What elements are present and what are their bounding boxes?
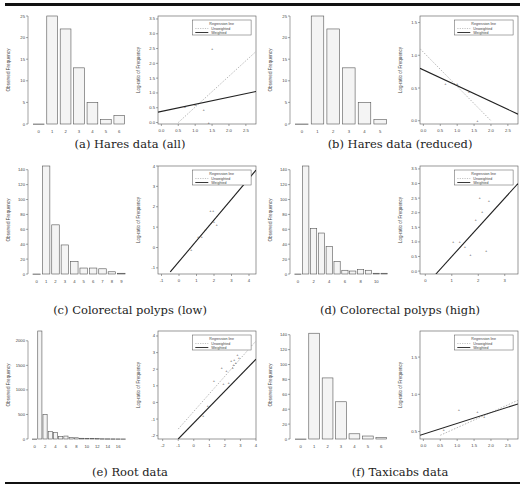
data-point: +: [215, 222, 218, 227]
svg-text:4: 4: [328, 279, 331, 284]
bar: [100, 120, 111, 124]
bar: [381, 273, 387, 274]
bar: [121, 439, 125, 440]
bar: [358, 102, 371, 124]
svg-text:3: 3: [239, 443, 242, 448]
bar: [74, 68, 85, 124]
chart-f-scatter: Log-ratio of Frequency0.51.01.50.00.51.0…: [394, 325, 522, 453]
svg-text:2: 2: [224, 443, 227, 448]
svg-text:20: 20: [282, 422, 287, 427]
bar: [343, 68, 356, 124]
svg-text:Weighted: Weighted: [211, 181, 226, 185]
data-point: +: [474, 217, 477, 222]
data-point: +: [201, 234, 204, 239]
svg-text:0: 0: [23, 122, 26, 127]
svg-text:-2: -2: [161, 443, 165, 448]
svg-text:0.0: 0.0: [149, 120, 155, 125]
weighted-regression-line: [178, 359, 256, 439]
bar: [373, 273, 379, 274]
data-point: +: [213, 378, 216, 383]
y-axis-label: Log-ratio of Frequency: [136, 361, 141, 408]
svg-text:1.0: 1.0: [411, 53, 417, 58]
caption-b: (b) Hares data (reduced): [320, 137, 480, 151]
svg-text:3: 3: [504, 278, 507, 283]
bar: [42, 166, 50, 274]
legend: Regression lineUnweightedWeighted: [454, 170, 513, 185]
caption-f: (f) Taxicabs data: [330, 465, 470, 479]
svg-text:1500: 1500: [16, 363, 26, 368]
y-axis-label: Log-ratio of Frequency: [398, 196, 403, 243]
bar: [111, 439, 115, 440]
svg-text:2.5: 2.5: [243, 128, 249, 133]
svg-text:1000: 1000: [16, 387, 26, 392]
y-axis-label: Log-ratio of Frequency: [398, 46, 403, 93]
svg-text:0: 0: [38, 129, 41, 134]
svg-text:0: 0: [23, 437, 26, 442]
data-point: +: [458, 407, 461, 412]
svg-text:2.5: 2.5: [505, 128, 511, 133]
bar: [326, 246, 332, 274]
bar: [349, 434, 360, 439]
svg-text:2: 2: [153, 204, 156, 209]
y-axis-label: Observed Frequency: [6, 198, 11, 242]
data-point: +: [476, 118, 479, 123]
weighted-regression-line: [436, 184, 518, 274]
legend: Regression lineUnweightedWeighted: [454, 335, 513, 350]
data-point: +: [190, 247, 193, 252]
svg-text:Weighted: Weighted: [473, 181, 488, 185]
svg-text:16: 16: [116, 444, 121, 449]
chart-d-bar: Observed Frequency0204060801001201400246…: [264, 160, 392, 288]
bar: [99, 269, 107, 274]
bar: [33, 124, 44, 125]
svg-text:2.0: 2.0: [488, 443, 494, 448]
unweighted-regression-line: [178, 52, 256, 123]
svg-text:5: 5: [367, 444, 370, 449]
data-point: +: [222, 381, 225, 386]
svg-text:140: 140: [280, 332, 288, 337]
bar: [336, 402, 347, 439]
bar: [318, 233, 324, 274]
bar: [71, 261, 79, 274]
svg-text:60: 60: [282, 392, 287, 397]
svg-text:3: 3: [340, 444, 343, 449]
data-point: +: [478, 195, 481, 200]
weighted-regression-line: [420, 404, 518, 435]
data-point: +: [456, 81, 459, 86]
svg-text:1.0: 1.0: [192, 128, 198, 133]
svg-text:3: 3: [153, 184, 156, 189]
svg-text:2.5: 2.5: [411, 196, 417, 201]
svg-text:80: 80: [20, 212, 25, 217]
svg-text:-1: -1: [160, 278, 164, 283]
svg-text:10: 10: [282, 78, 287, 83]
svg-text:1: 1: [313, 444, 316, 449]
unweighted-regression-line: [178, 341, 256, 429]
svg-text:1: 1: [316, 129, 319, 134]
legend: Regression lineUnweightedWeighted: [192, 335, 251, 350]
svg-text:0.5: 0.5: [411, 254, 417, 259]
bar: [74, 438, 78, 439]
svg-text:4: 4: [363, 129, 366, 134]
bar: [376, 438, 387, 439]
svg-text:0: 0: [23, 272, 26, 277]
bottom-rule: [5, 482, 520, 484]
chart-b-bar: Observed Frequency0510152025012345: [264, 10, 392, 138]
svg-text:2: 2: [312, 279, 315, 284]
data-point: +: [488, 198, 491, 203]
caption-e: (e) Root data: [60, 465, 200, 479]
svg-text:Regression line: Regression line: [471, 337, 496, 341]
svg-text:0.5: 0.5: [437, 128, 443, 133]
svg-text:Regression line: Regression line: [209, 337, 234, 341]
svg-text:120: 120: [280, 182, 288, 187]
y-axis-label: Observed Frequency: [268, 198, 273, 242]
svg-text:-1: -1: [176, 443, 180, 448]
svg-text:1.5: 1.5: [411, 225, 417, 230]
bar: [89, 268, 97, 274]
bar: [116, 439, 120, 440]
svg-text:12: 12: [95, 444, 100, 449]
svg-text:5: 5: [285, 100, 288, 105]
bar: [90, 439, 94, 440]
svg-text:2.5: 2.5: [505, 443, 511, 448]
svg-text:20: 20: [282, 257, 287, 262]
svg-text:140: 140: [280, 167, 288, 172]
bar: [322, 378, 333, 439]
